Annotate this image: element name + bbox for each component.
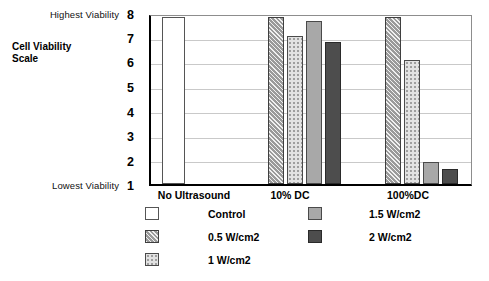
- plot-area: [149, 15, 472, 186]
- bar-100dc-1.5: [423, 162, 439, 184]
- legend-item-2: 2 W/cm2: [308, 230, 412, 243]
- y-tick-6: 6: [120, 57, 134, 69]
- lowest-viability-label: Lowest Viability: [52, 180, 119, 191]
- legend-swatch-2-icon: [308, 230, 322, 243]
- bar-10dc-1.5: [306, 21, 322, 184]
- bar-10dc-0.5: [268, 17, 284, 184]
- legend-swatch-1.5-icon: [308, 207, 322, 220]
- legend-label-0.5: 0.5 W/cm2: [208, 231, 259, 243]
- y-tick-7: 7: [120, 33, 134, 45]
- legend-label-1.5: 1.5 W/cm2: [369, 208, 420, 220]
- y-tick-4: 4: [120, 107, 134, 119]
- legend-item-1.5: 1.5 W/cm2: [308, 207, 420, 220]
- legend-swatch-1-icon: [145, 253, 159, 266]
- legend-label-1: 1 W/cm2: [208, 254, 251, 266]
- y-tick-8: 8: [120, 9, 134, 21]
- legend-label-2: 2 W/cm2: [369, 231, 412, 243]
- bar-100dc-2: [442, 169, 458, 184]
- y-axis-title: Cell Viability Scale: [12, 41, 71, 64]
- chart-legend: Control 0.5 W/cm2 1 W/cm2 1.5 W/cm2 2 W/…: [145, 207, 445, 273]
- legend-swatch-0.5-icon: [145, 230, 159, 243]
- y-tick-1: 1: [120, 180, 134, 192]
- category-label-no-ultrasound: No Ultrasound: [144, 189, 244, 201]
- bar-100dc-1: [404, 60, 420, 184]
- bar-no-ultrasound-control: [162, 17, 185, 184]
- legend-swatch-control-icon: [145, 207, 159, 220]
- y-tick-5: 5: [120, 82, 134, 94]
- bar-10dc-1: [287, 36, 303, 184]
- highest-viability-label: Highest Viability: [50, 9, 119, 20]
- category-label-100-dc: 100%DC: [368, 189, 448, 201]
- category-label-10-dc: 10% DC: [250, 189, 330, 201]
- bar-10dc-2: [325, 42, 341, 184]
- legend-label-control: Control: [208, 208, 245, 220]
- chart-figure: Highest Viability Lowest Viability Cell …: [0, 0, 489, 281]
- legend-item-0.5: 0.5 W/cm2: [145, 230, 259, 243]
- bar-100dc-0.5: [385, 17, 401, 184]
- y-tick-2: 2: [120, 156, 134, 168]
- legend-item-control: Control: [145, 207, 245, 220]
- legend-item-1: 1 W/cm2: [145, 253, 251, 266]
- y-tick-3: 3: [120, 131, 134, 143]
